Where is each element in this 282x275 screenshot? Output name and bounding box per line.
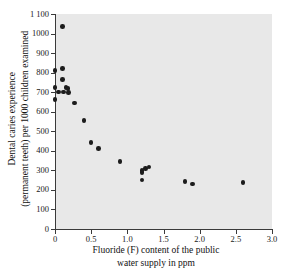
- x-axis-title-line2: water supply in ppm: [40, 257, 272, 270]
- x-axis-title: Fluoride (F) content of the public water…: [40, 244, 272, 270]
- x-axis-title-line1: Fluoride (F) content of the public: [40, 244, 272, 257]
- x-tick-label: 0.5: [76, 235, 106, 244]
- x-tick-label: 0: [40, 235, 70, 244]
- x-tick-label: 2.5: [221, 235, 251, 244]
- x-tick-label: 1.5: [149, 235, 179, 244]
- data-point: [66, 90, 71, 95]
- data-point: [53, 97, 58, 102]
- data-point: [60, 66, 65, 71]
- data-point: [60, 24, 65, 29]
- data-point: [82, 118, 87, 123]
- x-tick-label: 1.0: [112, 235, 142, 244]
- y-axis-title: Dental caries experience (permanent teet…: [6, 4, 32, 234]
- data-point: [60, 77, 65, 82]
- scatter-chart-figure: 010020030040050060070080090010001 100 00…: [0, 0, 282, 275]
- y-axis-title-line1: Dental caries experience: [6, 4, 19, 234]
- data-point: [140, 170, 145, 175]
- plot-area: [55, 14, 272, 229]
- y-axis-line: [55, 14, 56, 230]
- data-point: [72, 101, 77, 106]
- x-tick-label: 3.0: [257, 235, 282, 244]
- data-point: [96, 146, 101, 151]
- data-point: [190, 182, 195, 187]
- x-tick-label: 2.0: [185, 235, 215, 244]
- y-axis-title-line2: (permanent teeth) per 1000 children exam…: [19, 4, 32, 234]
- data-point: [53, 85, 58, 90]
